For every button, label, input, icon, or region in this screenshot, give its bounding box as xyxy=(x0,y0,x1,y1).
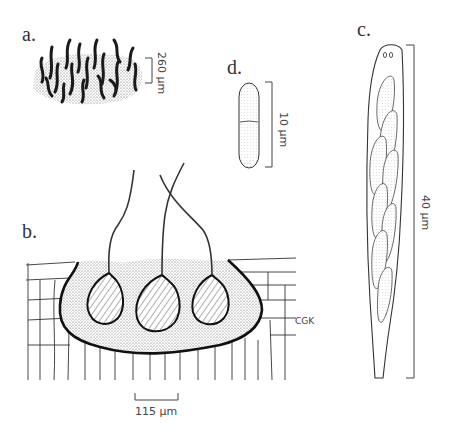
perithecial-necks xyxy=(109,163,212,275)
panel-b-drawing: 115 µm CGK xyxy=(26,163,315,418)
scale-label-d: 10 µm xyxy=(277,112,290,147)
scale-label-b: 115 µm xyxy=(135,405,177,418)
scale-bar-b xyxy=(135,393,178,400)
panel-c-drawing: 40 µm xyxy=(367,45,432,378)
figure-plate: 260 µm 10 µm 40 µm xyxy=(0,0,452,436)
scale-label-c: 40 µm xyxy=(419,195,432,230)
panel-a-drawing: 260 µm xyxy=(33,40,168,104)
scale-bar-d xyxy=(265,82,272,167)
scale-bar-a xyxy=(145,58,152,83)
scale-label-a: 260 µm xyxy=(155,52,168,94)
artist-signature: CGK xyxy=(295,316,315,326)
scale-bar-c xyxy=(406,45,414,378)
panel-d-drawing: 10 µm xyxy=(239,82,290,168)
